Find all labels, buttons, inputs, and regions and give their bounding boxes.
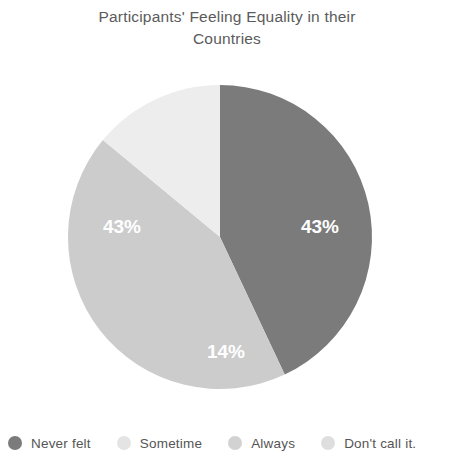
legend-swatch-icon: [8, 436, 22, 450]
legend-swatch-icon: [228, 436, 242, 450]
legend-item[interactable]: Never felt: [8, 436, 91, 451]
pie-slice-value-label: 43%: [103, 216, 141, 237]
legend-item-label: Don't call it.: [344, 436, 416, 451]
legend-swatch-icon: [321, 436, 335, 450]
pie-svg: 43%43%14%: [0, 60, 454, 412]
chart-legend: Never feltSometimeAlwaysDon't call it.: [0, 428, 454, 458]
legend-item[interactable]: Always: [228, 436, 295, 451]
chart-title: Participants' Feeling Equality in their …: [0, 6, 454, 50]
pie-slice-value-label: 43%: [301, 216, 339, 237]
legend-item[interactable]: Sometime: [117, 436, 202, 451]
legend-item-label: Never felt: [31, 436, 91, 451]
legend-item-label: Sometime: [140, 436, 202, 451]
legend-item[interactable]: Don't call it.: [321, 436, 416, 451]
legend-swatch-icon: [117, 436, 131, 450]
pie-slice-value-label: 14%: [207, 341, 245, 362]
pie-chart-figure: Participants' Feeling Equality in their …: [0, 0, 454, 471]
legend-item-label: Always: [251, 436, 295, 451]
pie-plot-area: 43%43%14%: [0, 60, 454, 412]
